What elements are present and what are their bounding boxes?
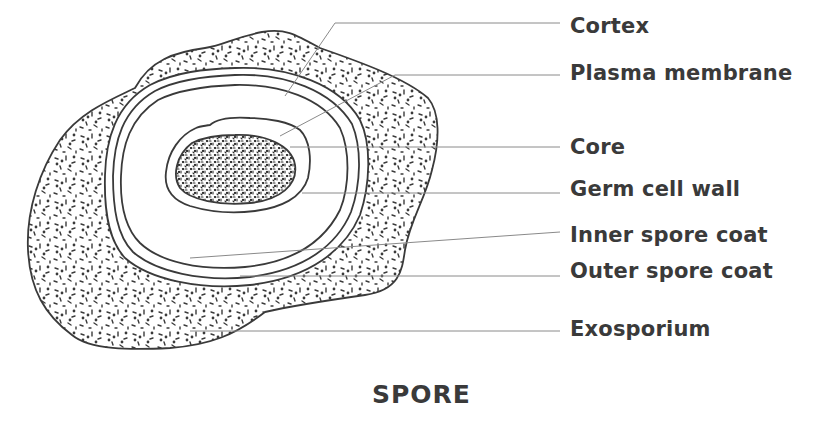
label-outer-spore-coat: Outer spore coat xyxy=(570,261,773,282)
diagram-title: SPORE xyxy=(0,380,829,409)
label-exosporium: Exosporium xyxy=(570,319,711,340)
label-cortex: Cortex xyxy=(570,16,649,37)
core xyxy=(176,135,295,204)
label-inner-spore-coat: Inner spore coat xyxy=(570,225,768,246)
label-core: Core xyxy=(570,137,625,158)
label-germ-cell-wall: Germ cell wall xyxy=(570,179,740,200)
label-plasma-membrane: Plasma membrane xyxy=(570,63,792,84)
